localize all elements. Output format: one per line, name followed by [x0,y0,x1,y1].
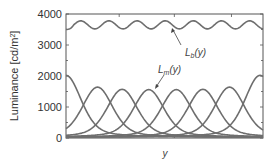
lm-curve-4 [66,90,263,137]
lm-curve-3 [66,89,263,137]
lm-label: Lm(y) [158,64,181,76]
axis-ticks [66,14,263,138]
y-tick-4000: 4000 [38,8,62,20]
y-tick-0: 0 [56,132,62,144]
lb-curve [66,21,263,30]
y-axis-title: Luminance [cd/m2] [8,31,20,122]
lb-label: Lb(y) [185,47,206,59]
x-axis-title: y [162,148,169,159]
lm-arrowhead-icon [155,84,159,89]
lb-arrow [173,30,181,45]
y-tick-1000: 1000 [38,101,62,113]
plot-frame [66,14,263,138]
curves-group [66,21,263,137]
lm-curve-7 [66,87,263,137]
lm-curve-5 [66,90,263,137]
y-tick-2000: 2000 [38,70,62,82]
lm-curve-6 [66,89,263,137]
y-tick-3000: 3000 [38,39,62,51]
lm-curve-2 [66,87,263,137]
luminance-chart: 4000 3000 2000 1000 0 Luminance [cd/m2] … [0,0,274,165]
